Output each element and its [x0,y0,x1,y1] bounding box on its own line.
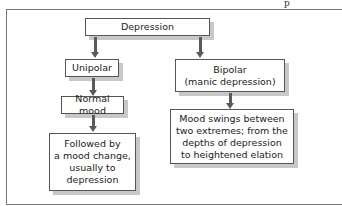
arrow-normal-mood-to-mood-change [92,115,95,127]
node-mood-change: Followed by a mood change, usually to de… [49,133,136,191]
arrow-unipolar-to-normal-mood [92,78,95,91]
node-normal-mood: Normal mood [61,96,124,114]
page-corner-glyph: p [284,0,290,6]
node-bipolar-label: Bipolar (manic depression) [184,64,275,88]
node-depression: Depression [85,18,210,36]
node-mood-swings: Mood swings between two extremes; from t… [170,109,294,164]
node-normal-mood-label: Normal mood [62,93,123,117]
node-unipolar-label: Unipolar [72,62,112,74]
node-unipolar: Unipolar [65,59,119,77]
node-depression-label: Depression [121,21,174,33]
arrow-root-to-bipolar [199,37,202,53]
node-mood-swings-label: Mood swings between two extremes; from t… [176,113,288,161]
node-bipolar: Bipolar (manic depression) [175,59,285,92]
arrow-root-to-unipolar [94,37,97,53]
node-mood-change-label: Followed by a mood change, usually to de… [54,138,131,186]
arrow-bipolar-to-mood-swings [229,93,232,104]
